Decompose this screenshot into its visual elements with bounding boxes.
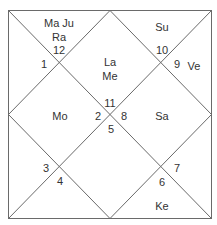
planets-house-11-line1: La [104,56,117,68]
house-number-5: 5 [108,123,114,135]
house-number-7: 7 [174,162,180,174]
birth-chart: Ma Ju Ra La Me Su Ve Mo Sa Ke 12 1 10 9 … [0,0,217,225]
planets-house-12-line2: Ra [52,31,67,43]
house-number-2: 2 [95,110,101,122]
planets-house-11-line2: Me [102,70,117,82]
planets-house-8: Sa [155,110,169,122]
house-number-6: 6 [159,176,165,188]
planets-house-6: Ke [155,200,168,212]
planets-house-9: Ve [188,60,201,72]
house-number-1: 1 [41,58,47,70]
house-number-3: 3 [43,162,49,174]
planets-house-10: Su [155,21,168,33]
house-number-11: 11 [104,97,115,109]
house-number-9: 9 [174,58,180,70]
house-number-10: 10 [156,44,168,56]
planets-house-12-line1: Ma Ju [44,17,74,29]
planets-house-2: Mo [52,110,67,122]
house-number-8: 8 [121,110,127,122]
house-number-12: 12 [53,44,65,56]
house-number-4: 4 [57,175,63,187]
